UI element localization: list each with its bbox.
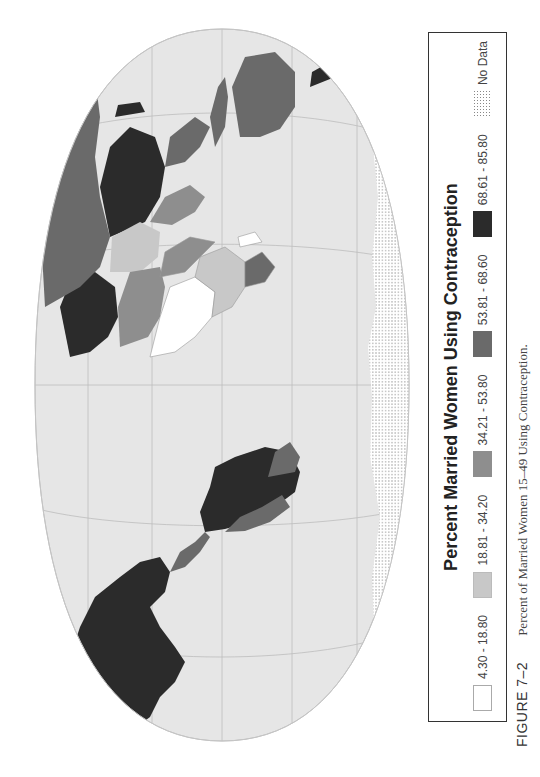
antarctica — [368, 29, 420, 737]
legend-swatch-dark-grey — [473, 331, 492, 357]
legend-swatch-no-data — [473, 91, 492, 117]
greenland — [38, 652, 72, 717]
figure-number: FIGURE 7–2 — [514, 662, 530, 747]
figure-caption-text: Percent of Married Women 15–49 Using Con… — [515, 344, 531, 636]
figure-page: Percent Married Women Using Contraceptio… — [0, 0, 540, 777]
legend-item-3: 53.81 - 68.60 — [473, 255, 492, 358]
legend-title: Percent Married Women Using Contraceptio… — [441, 33, 462, 721]
legend-item-0: 4.30 - 18.80 — [473, 615, 492, 711]
legend-item-1: 18.81 - 34.20 — [473, 495, 492, 598]
legend-item-2: 34.21 - 53.80 — [473, 375, 492, 478]
legend-items: 4.30 - 18.80 18.81 - 34.20 34.21 - 53.80… — [473, 41, 492, 711]
legend-swatch-white — [473, 685, 492, 711]
legend-swatch-medium-grey — [473, 451, 492, 477]
legend-swatch-light-grey — [473, 572, 492, 598]
legend-swatch-black — [473, 211, 492, 237]
legend-item-4: 68.61 - 85.80 — [473, 134, 492, 237]
world-map — [0, 0, 430, 777]
figure-caption: FIGURE 7–2 Percent of Married Women 15–4… — [514, 344, 531, 747]
legend: Percent Married Women Using Contraceptio… — [428, 32, 507, 722]
legend-item-5: No Data — [473, 41, 492, 117]
